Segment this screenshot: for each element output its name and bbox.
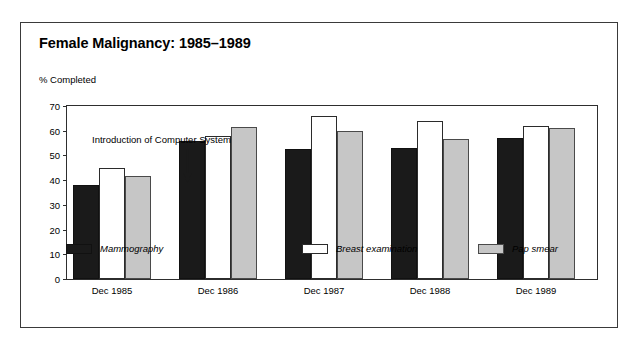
x-axis-tick-label: Dec 1987 xyxy=(304,285,345,296)
y-axis-tick-label: 50 xyxy=(30,150,67,161)
x-axis-tick-label: Dec 1985 xyxy=(92,285,133,296)
y-axis-tick-label: 60 xyxy=(30,125,67,136)
x-axis-tick-label: Dec 1986 xyxy=(198,285,239,296)
legend-label-pap-smear: Pap smear xyxy=(512,243,558,254)
y-axis-tick-mark xyxy=(63,155,67,156)
down-arrow-icon xyxy=(182,149,193,184)
legend-label-mammography: Mammography xyxy=(100,243,163,254)
y-axis-tick-mark xyxy=(63,279,67,280)
y-axis-tick-mark xyxy=(63,205,67,206)
chart-figure-frame: Female Malignancy: 1985–1989 % Completed… xyxy=(20,22,618,328)
y-axis-tick-label: 20 xyxy=(30,224,67,235)
y-axis-tick-mark xyxy=(63,131,67,132)
legend-item-pap-smear: Pap smear xyxy=(478,243,558,254)
bar-mammography xyxy=(391,148,417,279)
annotation-text: Introduction of Computer System xyxy=(92,134,231,145)
legend-item-mammography: Mammography xyxy=(66,243,163,254)
y-axis-tick-label: 0 xyxy=(30,274,67,285)
bar-breast-examination xyxy=(99,168,125,279)
chart-legend: Mammography Breast examination Pap smear xyxy=(66,243,611,259)
legend-item-breast-examination: Breast examination xyxy=(302,243,417,254)
y-axis-tick-label: 70 xyxy=(30,101,67,112)
y-axis-tick-label: 40 xyxy=(30,175,67,186)
x-axis-tick-label: Dec 1989 xyxy=(516,285,557,296)
bar-mammography xyxy=(73,185,99,279)
legend-label-breast-examination: Breast examination xyxy=(336,243,417,254)
legend-swatch-breast-examination xyxy=(302,244,328,254)
y-axis-tick-mark xyxy=(63,106,67,107)
legend-swatch-pap-smear xyxy=(478,244,504,254)
chart-title: Female Malignancy: 1985–1989 xyxy=(39,35,251,51)
bar-mammography xyxy=(285,149,311,279)
bar-pap-smear xyxy=(125,176,151,279)
x-axis-tick-label: Dec 1988 xyxy=(410,285,451,296)
y-axis-tick-label: 10 xyxy=(30,249,67,260)
y-axis-tick-mark xyxy=(63,180,67,181)
y-axis-tick-mark xyxy=(63,230,67,231)
y-axis-label: % Completed xyxy=(39,74,96,85)
legend-swatch-mammography xyxy=(66,244,92,254)
y-axis-tick-label: 30 xyxy=(30,199,67,210)
